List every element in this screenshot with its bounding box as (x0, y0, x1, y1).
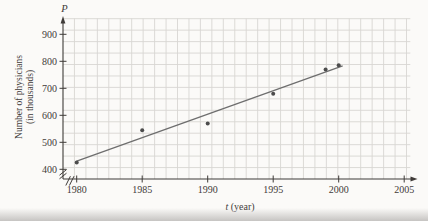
x-tick-label: 1995 (263, 184, 283, 195)
data-point (206, 121, 210, 125)
x-tick-label: 2000 (329, 184, 349, 195)
data-point (140, 128, 144, 132)
x-tick-label: 2005 (394, 184, 414, 195)
data-point (271, 92, 275, 96)
y-tick-label: 500 (42, 137, 57, 148)
y-axis-letter: P (60, 3, 68, 14)
x-tick-label: 1990 (198, 184, 218, 195)
y-tick-label: 700 (42, 83, 57, 94)
data-point (337, 63, 341, 67)
physicians-scatter-plot: 1980198519901995200020054005006007008009… (0, 0, 428, 221)
y-axis-title-line1: Number of physicians (14, 55, 24, 139)
x-tick-label: 1985 (132, 184, 152, 195)
y-tick-label: 600 (42, 110, 57, 121)
physicians-scatter-figure: 1980198519901995200020054005006007008009… (0, 0, 428, 221)
y-axis-title-line2: (in thousands) (25, 70, 36, 124)
data-point (324, 67, 328, 71)
data-point (75, 161, 79, 165)
y-tick-label: 900 (42, 29, 57, 40)
y-tick-label: 400 (42, 164, 57, 175)
page-edge-shadow (0, 208, 428, 221)
y-tick-label: 800 (42, 56, 57, 67)
